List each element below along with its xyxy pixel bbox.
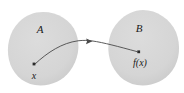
set-b-blob (108, 10, 179, 85)
function-mapping-figure: A B x f(x) (0, 0, 184, 93)
diagram-canvas: A B x f(x) (0, 0, 184, 93)
point-x-dot (33, 63, 36, 66)
point-x-label: x (31, 70, 37, 81)
set-b-label: B (136, 22, 143, 34)
set-a-label: A (36, 23, 44, 35)
point-fx-dot (137, 50, 140, 53)
point-fx-label: f(x) (133, 57, 148, 69)
